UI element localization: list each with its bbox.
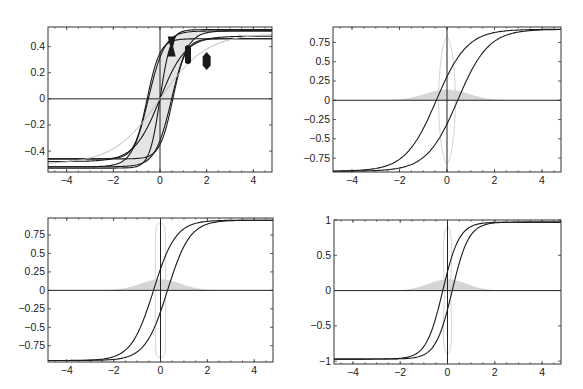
y-tick-label: 0 [325,284,331,296]
x-tick-label: 0 [444,174,450,186]
x-tick-label: 2 [204,364,210,376]
x-tick-label: −2 [107,174,119,186]
x-tick-label: 2 [492,366,498,378]
y-tick-label: −0.75 [303,152,330,164]
x-tick-label: −2 [394,366,406,378]
x-tick-label: 0 [158,364,164,376]
y-tick-label: 1 [325,214,331,226]
y-tick-label: 0.75 [25,228,46,240]
y-tick-label: 0.5 [315,55,330,67]
plot-area [48,27,272,172]
y-tick-label: −0.75 [18,339,45,351]
y-tick-label: −0.5 [309,132,330,144]
bar-marker-icon [185,45,191,64]
y-tick-label: −0.4 [24,145,45,157]
y-tick-label: −0.5 [310,319,331,331]
x-tick-label: 2 [492,174,498,186]
x-tick-label: −4 [346,174,358,186]
y-tick-label: 0.75 [310,36,331,48]
y-tick-label: 0 [39,92,45,104]
lozenge-marker-icon [203,52,211,70]
y-tick-label: 0.2 [30,66,45,78]
y-tick-label: 0 [39,284,45,296]
x-tick-label: −2 [108,364,120,376]
panel-top-left: −4−2024−0.4−0.200.20.4 [24,27,272,186]
x-tick-label: 4 [539,366,545,378]
x-tick-label: −4 [347,366,359,378]
x-tick-label: −4 [61,364,73,376]
y-tick-label: 0.5 [316,249,331,261]
y-tick-label: −0.25 [18,302,45,314]
panel-bottom-right: −4−2024−1−0.500.51 [310,214,561,379]
x-tick-label: 0 [445,366,451,378]
plot-area [333,27,561,172]
plot-area [334,220,561,364]
x-tick-label: 4 [251,364,257,376]
figure-2x2-hysteresis-plots: −4−2024−0.4−0.200.20.4 −4−2024−0.75−0.5−… [0,0,583,389]
x-tick-label: −4 [61,174,73,186]
y-tick-label: −0.5 [24,321,45,333]
y-tick-label: 0.4 [30,40,45,52]
x-tick-label: −2 [394,174,406,186]
x-tick-label: 4 [250,174,256,186]
y-tick-label: −1 [319,355,331,367]
x-tick-label: 0 [157,174,163,186]
y-tick-label: −0.2 [24,118,45,130]
plot-area [48,218,273,362]
y-tick-label: 0.5 [30,247,45,259]
x-tick-label: 4 [539,174,545,186]
y-tick-label: −0.25 [303,113,330,125]
panel-top-right: −4−2024−0.75−0.5−0.2500.250.50.75 [303,27,561,186]
panel-bottom-left: −4−2024−0.75−0.5−0.2500.250.50.75 [18,218,273,376]
y-tick-label: 0 [324,94,330,106]
y-tick-label: 0.25 [25,265,46,277]
x-tick-label: 2 [204,174,210,186]
y-tick-label: 0.25 [310,74,331,86]
